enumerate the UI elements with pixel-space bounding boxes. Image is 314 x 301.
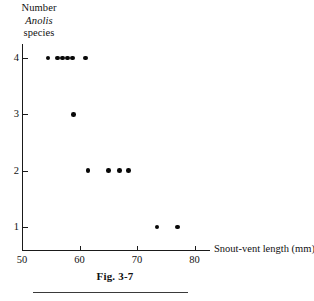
data-point	[83, 56, 88, 61]
y-axis-tick	[23, 58, 28, 59]
figure-caption: Fig. 3-7	[0, 270, 230, 282]
y-axis-title: Number Anolis species	[6, 2, 72, 40]
x-axis-tick-label: 50	[11, 254, 33, 265]
figure-container: Number Anolis species 123450607080 Snout…	[0, 0, 314, 301]
data-point	[65, 56, 70, 61]
x-axis-tick	[137, 246, 138, 251]
x-axis-tick-label: 70	[126, 254, 148, 265]
x-axis-tick	[195, 246, 196, 251]
y-axis-tick-label: 4	[5, 52, 19, 63]
data-point	[175, 225, 180, 230]
y-axis-tick	[23, 114, 28, 115]
y-axis-tick-label: 3	[5, 108, 19, 119]
y-axis-tick-label: 1	[5, 221, 19, 232]
data-point	[46, 56, 51, 61]
data-point	[117, 168, 122, 173]
data-point	[155, 225, 160, 230]
x-axis-tick	[22, 246, 23, 251]
x-axis-tick-label: 60	[69, 254, 91, 265]
y-axis-title-line-3: species	[6, 27, 72, 40]
x-axis-tick	[80, 246, 81, 251]
data-point	[86, 168, 91, 173]
x-axis-line	[22, 250, 210, 251]
y-axis-tick	[23, 171, 28, 172]
y-axis-tick	[23, 227, 28, 228]
data-point	[126, 168, 131, 173]
caption-rule	[33, 292, 188, 293]
data-point	[70, 56, 75, 61]
y-axis-line	[22, 44, 23, 251]
data-point	[106, 168, 111, 173]
y-axis-title-line-2: Anolis	[6, 15, 72, 28]
x-axis-tick-label: 80	[184, 254, 206, 265]
y-axis-title-line-1: Number	[6, 2, 72, 15]
x-axis-title: Snout-vent length (mm)	[214, 243, 314, 255]
data-point	[71, 112, 76, 117]
data-point	[60, 56, 65, 61]
y-axis-tick-label: 2	[5, 165, 19, 176]
